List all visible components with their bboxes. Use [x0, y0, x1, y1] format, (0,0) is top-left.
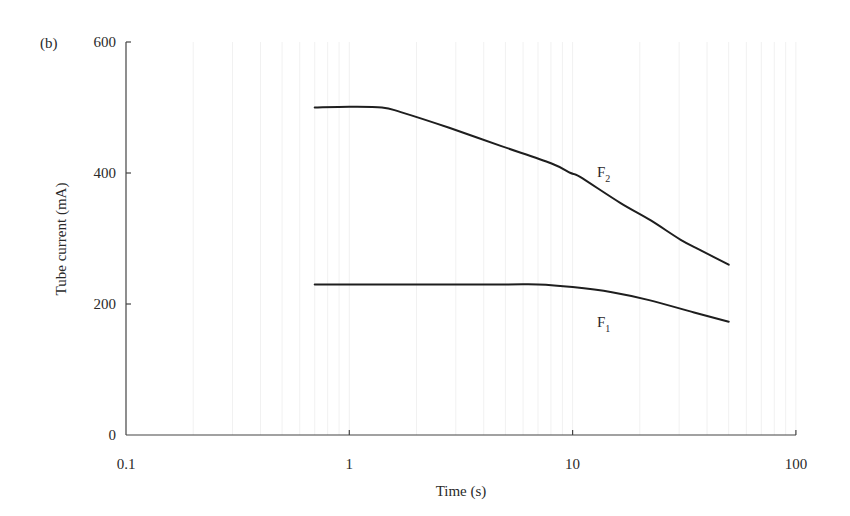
y-tick-label: 400	[94, 165, 117, 181]
series-label-f1: F1	[597, 314, 610, 334]
y-axis-title: Tube current (mA)	[53, 183, 70, 296]
grid-lines	[193, 42, 796, 435]
panel-label: (b)	[40, 35, 58, 52]
chart: 0.1110100 0200400600 (b) Time (s) Tube c…	[0, 0, 850, 516]
series-line-f1	[315, 284, 729, 322]
y-tick-label: 200	[94, 296, 117, 312]
x-tick-label: 100	[785, 456, 808, 472]
data-series	[315, 107, 729, 322]
x-ticks: 0.1110100	[117, 430, 808, 472]
y-tick-label: 600	[94, 34, 117, 50]
y-ticks: 0200400600	[94, 34, 132, 443]
x-tick-label: 0.1	[117, 456, 136, 472]
x-axis-title: Time (s)	[436, 483, 487, 500]
axes	[126, 42, 796, 435]
x-tick-label: 10	[565, 456, 580, 472]
series-line-f2	[315, 107, 729, 265]
series-label-f2: F2	[597, 164, 610, 184]
x-tick-label: 1	[346, 456, 354, 472]
y-tick-label: 0	[109, 427, 117, 443]
